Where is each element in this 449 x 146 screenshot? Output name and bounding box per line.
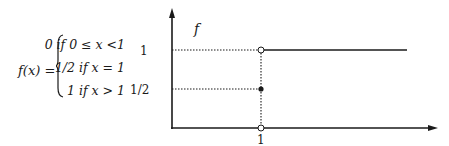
step-function-plot: f 1 1/2 1 [0, 0, 449, 146]
y-tick-half: 1/2 [130, 83, 149, 97]
y-axis-label: f [193, 21, 202, 37]
y-axis-arrow-icon [169, 8, 175, 18]
x-tick-1: 1 [257, 133, 265, 146]
y-tick-1: 1 [140, 44, 148, 58]
x-axis-arrow-icon [428, 125, 438, 131]
open-circle-origin-marker-icon [258, 125, 264, 131]
filled-dot-marker-icon [258, 86, 263, 91]
open-circle-marker-icon [258, 47, 264, 53]
